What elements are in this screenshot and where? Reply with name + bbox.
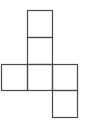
net-square-top-1 — [28, 11, 53, 38]
net-square-top-2 — [28, 38, 53, 65]
net-square-middle-right — [53, 65, 78, 91]
cube-net-diagram — [0, 0, 88, 123]
net-square-middle-center — [28, 65, 53, 91]
net-square-middle-left — [2, 65, 28, 91]
net-square-bottom — [53, 91, 78, 118]
